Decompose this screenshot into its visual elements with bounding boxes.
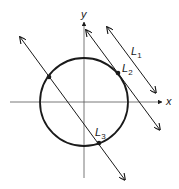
line-l1	[107, 27, 156, 93]
intersection-point-l3-upper	[47, 75, 52, 80]
label-l3-sub: 3	[101, 132, 105, 141]
y-axis-label: y	[81, 9, 87, 20]
label-l2: L2	[122, 63, 133, 74]
x-axis-label: x	[166, 96, 172, 107]
label-l1-sub: 1	[137, 51, 141, 60]
tangent-point-l2	[116, 71, 121, 76]
label-l3: L3	[95, 127, 106, 138]
diagram-svg	[0, 0, 179, 189]
line-l2	[86, 30, 160, 130]
diagram-canvas: y x L1 L2 L3	[0, 0, 179, 189]
label-l2-sub: 2	[128, 68, 132, 77]
label-l1: L1	[131, 46, 142, 57]
intersection-point-l3-lower	[97, 141, 102, 146]
line-l3	[20, 37, 125, 180]
